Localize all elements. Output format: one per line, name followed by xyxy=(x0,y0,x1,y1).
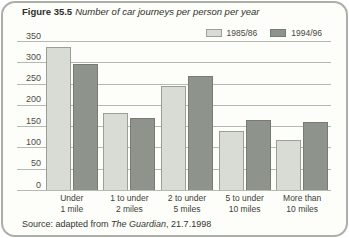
x-tick-line1: More than xyxy=(273,193,331,204)
y-tick-label-200: 200 xyxy=(0,94,41,104)
y-tick-label-100: 100 xyxy=(0,137,41,147)
y-tick-label-150: 150 xyxy=(0,116,41,126)
y-tick-label-0: 0 xyxy=(0,180,41,190)
x-tick-label-group2: 1 to under2 miles xyxy=(101,193,159,215)
source-suffix: , 21.7.1998 xyxy=(166,219,211,229)
figure-card: Figure 35.5Number of car journeys per pe… xyxy=(0,0,349,238)
bar-1985-86-group1 xyxy=(46,47,71,190)
x-tick-line1: 2 to under xyxy=(158,193,216,204)
bar-1994-96-group1 xyxy=(73,64,98,190)
bar-1994-96-group5 xyxy=(303,122,328,190)
bar-1985-86-group5 xyxy=(276,140,301,190)
y-tick-label-350: 350 xyxy=(0,31,41,41)
y-tick-label-250: 250 xyxy=(0,73,41,83)
y-tick-label-50: 50 xyxy=(0,158,41,168)
source-prefix: Source: adapted from xyxy=(22,219,111,229)
source-publication: The Guardian xyxy=(111,219,166,229)
y-tick-label-300: 300 xyxy=(0,52,41,62)
x-tick-label-group3: 2 to under5 miles xyxy=(158,193,216,215)
bar-chart: 350300250200150100500Under1 mile1 to und… xyxy=(0,0,349,238)
bar-1994-96-group2 xyxy=(130,118,155,190)
bar-1985-86-group2 xyxy=(103,113,128,190)
x-tick-line2: 5 miles xyxy=(158,204,216,215)
x-tick-label-group5: More than10 miles xyxy=(273,193,331,215)
gridline-350 xyxy=(17,41,331,42)
gridline-0 xyxy=(17,190,331,191)
x-tick-line1: 1 to under xyxy=(101,193,159,204)
x-tick-line1: 5 to under xyxy=(216,193,274,204)
x-tick-line2: 1 mile xyxy=(43,204,101,215)
x-tick-line1: Under xyxy=(43,193,101,204)
x-tick-line2: 10 miles xyxy=(216,204,274,215)
x-tick-line2: 2 miles xyxy=(101,204,159,215)
bar-1985-86-group3 xyxy=(161,86,186,190)
x-tick-line2: 10 miles xyxy=(273,204,331,215)
bar-1994-96-group3 xyxy=(188,76,213,190)
bar-1994-96-group4 xyxy=(246,120,271,190)
x-tick-label-group4: 5 to under10 miles xyxy=(216,193,274,215)
x-tick-label-group1: Under1 mile xyxy=(43,193,101,215)
bar-1985-86-group4 xyxy=(219,131,244,190)
source-note: Source: adapted from The Guardian, 21.7.… xyxy=(22,219,211,229)
